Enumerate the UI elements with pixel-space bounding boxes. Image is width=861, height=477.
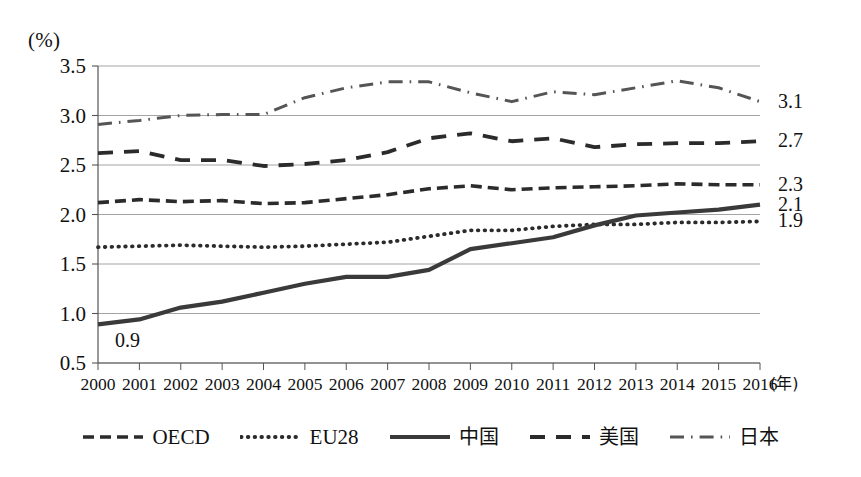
series-line-5 [98,81,760,125]
x-axis-tick-label: 2011 [530,376,576,394]
series-line-4 [98,133,760,166]
chart-legend: OECDEU28中国美国日本 [0,414,861,460]
legend-swatch-icon [82,430,144,444]
data-series-group [98,81,760,325]
y-axis-tick-label: 2.0 [30,205,86,226]
legend-item-3[interactable]: 中国 [389,427,499,447]
chart-plot-svg [0,0,861,477]
legend-swatch-icon [529,430,591,444]
x-axis-tick-label: 2001 [116,376,162,394]
series-end-label-1: 2.3 [778,174,803,194]
y-axis-tick-label: 1.0 [30,304,86,325]
series-line-1 [98,184,760,204]
legend-swatch-icon [240,430,302,444]
x-axis-tick-label: 2005 [282,376,328,394]
x-axis-tick-label: 2002 [158,376,204,394]
legend-label: 美国 [599,427,639,447]
x-axis-unit-label: (年) [770,376,798,392]
legend-label: OECD [152,427,209,448]
x-axis-tick-label: 2007 [365,376,411,394]
x-axis-tick-label: 2009 [447,376,493,394]
chart-figure: (%) 0.51.01.52.02.53.03.5 20002001200220… [0,0,861,477]
legend-item-5[interactable]: 日本 [669,427,779,447]
legend-label: 中国 [459,427,499,447]
y-axis-tick-label: 0.5 [30,353,86,374]
legend-item-2[interactable]: EU28 [240,427,359,448]
x-axis-tick-label: 2010 [489,376,535,394]
x-axis-tick-label: 2014 [654,376,700,394]
legend-label: 日本 [739,427,779,447]
series-end-label-3: 2.1 [778,194,803,214]
x-axis-tick-label: 2015 [696,376,742,394]
legend-item-1[interactable]: OECD [82,427,209,448]
y-axis-tick-label: 1.5 [30,254,86,275]
y-axis-tick-label: 2.5 [30,155,86,176]
series-line-2 [98,221,760,247]
x-axis-tick-label: 2003 [199,376,245,394]
y-axis-tick-label: 3.5 [30,56,86,77]
series-end-label-5: 3.1 [778,91,803,111]
x-axis-tick-label: 2006 [323,376,369,394]
x-axis-tick-label: 2000 [75,376,121,394]
x-axis-tick-label: 2004 [241,376,287,394]
series-start-label-3: 0.9 [115,330,140,350]
y-axis-tick-label: 3.0 [30,106,86,127]
series-end-label-4: 2.7 [778,130,803,150]
x-tick-marks-group [98,363,760,370]
y-axis-unit-label: (%) [28,28,60,53]
legend-label: EU28 [310,427,359,448]
x-axis-tick-label: 2008 [406,376,452,394]
legend-swatch-icon [669,430,731,444]
x-axis-tick-label: 2012 [572,376,618,394]
legend-swatch-icon [389,430,451,444]
x-axis-tick-label: 2013 [613,376,659,394]
legend-item-4[interactable]: 美国 [529,427,639,447]
